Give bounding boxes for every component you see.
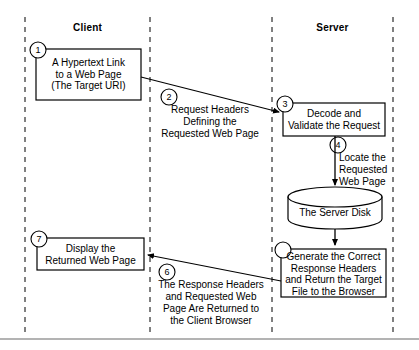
- flow-6-line-3: Page Are Returned to: [148, 303, 274, 315]
- flow-4-line-2: Requested: [339, 164, 395, 176]
- node-3-label: Decode and Validate the Request: [283, 108, 385, 131]
- flow-2-line-2: Defining the: [148, 116, 272, 128]
- flow-4-label: Locate the Requested Web Page: [339, 152, 395, 188]
- node-5-line-2: Response Headers: [281, 263, 386, 275]
- node-7-label: Display the Returned Web Page: [37, 243, 144, 266]
- step-number-6: 6: [159, 264, 175, 280]
- node-5-line-4: File to the Browser: [281, 286, 386, 298]
- node-1-line-2: to a Web Page: [36, 69, 141, 81]
- step-number-4: 4: [330, 137, 346, 153]
- node-3-line-1: Decode and: [283, 108, 385, 120]
- node-5-line-3: and Return the Target: [281, 274, 386, 286]
- flow-6-line-4: the Client Browser: [148, 315, 274, 327]
- node-7-line-1: Display the: [37, 243, 144, 255]
- flow-6-line-2: and Requested Web: [148, 291, 274, 303]
- flow-6-line-1: The Response Headers: [148, 279, 274, 291]
- flow-4-line-3: Web Page: [339, 176, 395, 188]
- node-3-line-2: Validate the Request: [283, 120, 385, 132]
- node-disk-line-1: The Server Disk: [288, 207, 382, 219]
- node-1-line-3: (The Target URI): [36, 80, 141, 92]
- node-1-label: A Hypertext Link to a Web Page (The Targ…: [36, 57, 141, 92]
- node-disk-label: The Server Disk: [288, 207, 382, 219]
- node-7-line-2: Returned Web Page: [37, 255, 144, 267]
- flow-6-label: The Response Headers and Requested Web P…: [148, 279, 274, 327]
- diagram-canvas: Client Server 1 2 3 4 6 7 A Hypertext Li…: [0, 0, 419, 350]
- node-1-line-1: A Hypertext Link: [36, 57, 141, 69]
- node-5-label: Generate the Correct Response Headers an…: [281, 251, 386, 297]
- flow-2-label: Request Headers Defining the Requested W…: [148, 104, 272, 140]
- node-5-line-1: Generate the Correct: [281, 251, 386, 263]
- step-number-1: 1: [30, 42, 46, 58]
- flow-4-line-1: Locate the: [339, 152, 395, 164]
- flow-2-line-3: Requested Web Page: [148, 128, 272, 140]
- flow-2-line-1: Request Headers: [148, 104, 272, 116]
- lane-title-client: Client: [25, 22, 150, 33]
- lane-title-server: Server: [272, 22, 393, 33]
- step-number-2: 2: [161, 89, 177, 105]
